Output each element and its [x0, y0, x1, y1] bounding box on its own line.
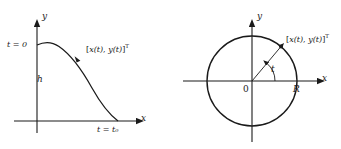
- x-axis-label-right: x: [322, 74, 327, 83]
- y-of-t-right: y(t): [308, 35, 322, 44]
- trajectory-curve: [37, 42, 118, 121]
- y-axis-label-right: y: [257, 12, 262, 21]
- position-vector-label-left: [x(t), y(t)]T: [86, 46, 129, 54]
- origin-label: 0: [243, 85, 249, 94]
- x-of-t-right: x(t): [289, 35, 303, 44]
- transpose-superscript-right: T: [325, 33, 329, 39]
- projectile-drawing: [0, 0, 170, 149]
- radius-label: R: [293, 85, 300, 94]
- radius-vector: [252, 47, 281, 82]
- start-time-label: t = 0: [7, 41, 27, 49]
- figure-pair: y x t = 0 t = t₀ h [x(t), y(t)]T: [0, 0, 341, 149]
- end-time-label: t = t₀: [97, 126, 118, 134]
- projectile-trajectory-figure: y x t = 0 t = t₀ h [x(t), y(t)]T: [0, 0, 170, 149]
- y-of-t-left: y(t): [108, 45, 122, 54]
- transpose-superscript-left: T: [125, 43, 129, 49]
- circle-drawing: [170, 0, 341, 149]
- x-axis-label-left: x: [141, 114, 146, 123]
- angle-label: t: [271, 65, 275, 74]
- moving-point: [279, 45, 283, 49]
- position-vector-label-right: [x(t), y(t)]T: [286, 36, 329, 44]
- y-axis-label-left: y: [42, 12, 47, 21]
- height-label: h: [37, 75, 43, 84]
- x-of-t-left: x(t): [89, 45, 103, 54]
- circular-motion-figure: y x 0 R t [x(t), y(t)]T: [170, 0, 341, 149]
